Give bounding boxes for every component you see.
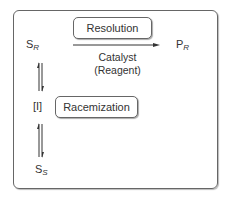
species-sr: SR [26,38,39,52]
species-ss: SS [35,163,48,177]
resolution-box: Resolution [73,17,152,39]
catalyst-label: Catalyst [80,51,155,63]
racemization-box: Racemization [55,96,138,118]
reagent-label: (Reagent) [80,64,155,76]
species-pr: PR [176,38,189,52]
intermediate-label: [I] [33,100,42,112]
